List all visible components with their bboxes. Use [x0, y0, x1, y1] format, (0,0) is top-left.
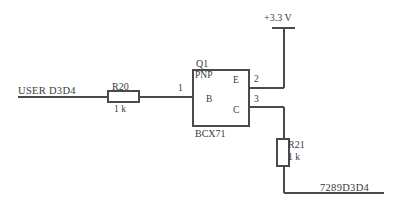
resistor-r20-value-label: 1 k: [114, 104, 126, 115]
schematic-canvas: USER D3D4 R20 1 k 1 Q1 PNP B E C BCX71 2…: [0, 0, 394, 214]
pin-number-3: 3: [254, 94, 259, 105]
resistor-r20-body: [108, 91, 139, 102]
resistor-r21-ref-label: R21: [288, 139, 305, 150]
transistor-q1-type-label: PNP: [195, 70, 212, 81]
resistor-r20-ref-label: R20: [112, 81, 129, 92]
pin-number-2: 2: [254, 74, 259, 85]
transistor-q1-part-label: BCX71: [195, 128, 226, 139]
pin-number-1: 1: [178, 83, 183, 94]
resistor-r21-value-label: 1 k: [288, 152, 300, 163]
transistor-terminal-emitter: E: [233, 75, 239, 86]
supply-voltage-label: +3.3 V: [264, 12, 292, 23]
net-label-input: USER D3D4: [18, 85, 76, 96]
transistor-terminal-collector: C: [233, 105, 239, 116]
transistor-terminal-base: B: [206, 94, 212, 105]
net-label-output: 7289D3D4: [320, 182, 369, 193]
transistor-q1-ref-label: Q1: [196, 58, 208, 69]
